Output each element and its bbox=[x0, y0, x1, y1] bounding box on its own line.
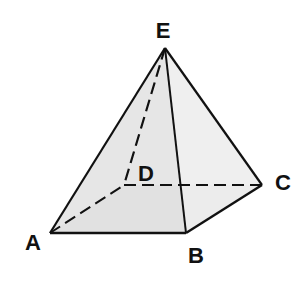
vertex-label-c: C bbox=[275, 170, 291, 195]
vertex-label-e: E bbox=[156, 18, 171, 43]
face-eab bbox=[50, 48, 186, 233]
vertex-label-a: A bbox=[25, 230, 41, 255]
vertex-label-d: D bbox=[138, 161, 154, 186]
pyramid-diagram: E A B C D bbox=[0, 0, 305, 284]
vertex-label-b: B bbox=[188, 243, 204, 268]
